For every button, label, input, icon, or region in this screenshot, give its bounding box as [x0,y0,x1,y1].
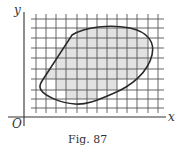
figure-87-diagram: y x O Fig. 87 [0,0,180,149]
figure-caption: Fig. 87 [68,133,107,146]
origin-label: O [12,117,22,131]
y-axis-label: y [13,3,21,17]
x-axis-label: x [168,110,175,124]
